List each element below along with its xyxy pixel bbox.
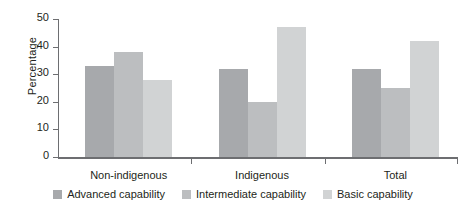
x-tick (191, 159, 192, 164)
y-tick-label: 40 (37, 39, 49, 51)
x-tick (325, 159, 326, 164)
bar (114, 52, 143, 157)
y-tick: 50 (53, 19, 58, 20)
y-tick: 10 (53, 129, 58, 130)
legend-label: Intermediate capability (196, 188, 306, 200)
y-tick-label: 20 (37, 94, 49, 106)
y-tick: 20 (53, 102, 58, 103)
legend-swatch-icon (323, 190, 332, 199)
bar-chart-figure: Percentage 01020304050 Non-indigenousInd… (0, 0, 466, 213)
bar (277, 27, 306, 157)
bar (219, 69, 248, 157)
legend-item[interactable]: Intermediate capability (182, 188, 306, 200)
y-tick: 40 (53, 47, 58, 48)
legend-label: Advanced capability (67, 188, 165, 200)
chart-legend: Advanced capabilityIntermediate capabili… (0, 188, 466, 200)
y-tick: 0 (53, 157, 58, 158)
y-tick-label: 50 (37, 11, 49, 23)
legend-swatch-icon (53, 190, 62, 199)
x-category-label: Indigenous (192, 169, 332, 181)
y-tick-label: 10 (37, 121, 49, 133)
legend-swatch-icon (182, 190, 191, 199)
bar (85, 66, 114, 157)
bar (352, 69, 381, 157)
y-tick-label: 30 (37, 66, 49, 78)
bar (381, 88, 410, 157)
y-axis-line (58, 19, 59, 158)
x-tick (457, 159, 458, 164)
y-tick: 30 (53, 74, 58, 75)
x-category-label: Non-indigenous (59, 169, 199, 181)
bar (410, 41, 439, 157)
x-category-label: Total (325, 169, 465, 181)
bar (248, 102, 277, 157)
legend-label: Basic capability (337, 188, 413, 200)
plot-area: 01020304050 Non-indigenousIndigenousTota… (58, 19, 458, 157)
y-tick-label: 0 (43, 149, 49, 161)
bar (143, 80, 172, 157)
x-axis-line (58, 157, 458, 159)
legend-item[interactable]: Advanced capability (53, 188, 165, 200)
legend-item[interactable]: Basic capability (323, 188, 413, 200)
